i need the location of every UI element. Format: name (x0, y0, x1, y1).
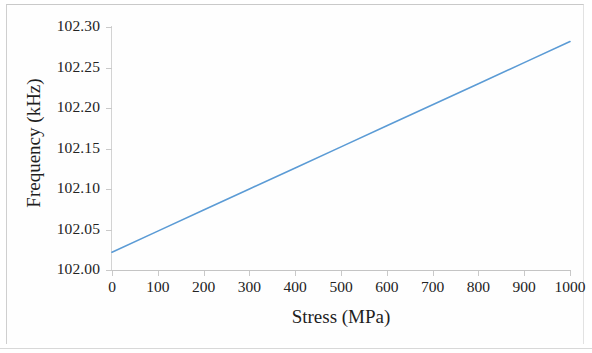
y-axis-tick-label: 102.05 (0, 220, 100, 238)
y-axis-tick (106, 108, 112, 109)
x-axis-tick (112, 271, 113, 276)
x-axis-tick (433, 271, 434, 276)
y-axis-tick-label: 102.30 (0, 17, 100, 35)
y-axis-tick-label: 102.15 (0, 139, 100, 157)
x-axis-tick (341, 271, 342, 276)
x-axis-tick (295, 271, 296, 276)
x-axis-title: Stress (MPa) (112, 306, 570, 328)
series-line-frequency-vs-stress (112, 42, 570, 253)
y-axis-tick (106, 230, 112, 231)
y-axis-title: Frequency (kHz) (23, 43, 45, 243)
y-axis-tick-label: 102.25 (0, 58, 100, 76)
x-axis-tick (387, 271, 388, 276)
y-axis-tick (106, 27, 112, 28)
y-axis-tick-label: 102.10 (0, 179, 100, 197)
x-axis-tick (478, 271, 479, 276)
y-axis-tick-label: 102.00 (0, 260, 100, 278)
x-axis-tick (524, 271, 525, 276)
x-axis-tick (158, 271, 159, 276)
series-plot-layer (0, 0, 592, 353)
x-axis-tick (204, 271, 205, 276)
y-axis-tick-label: 102.20 (0, 98, 100, 116)
x-axis-tick (570, 271, 571, 276)
y-axis-tick (106, 149, 112, 150)
x-axis-tick-label: 1000 (535, 278, 592, 296)
x-axis-tick (249, 271, 250, 276)
y-axis-tick (106, 189, 112, 190)
y-axis-tick (106, 68, 112, 69)
line-chart: 102.30102.25102.20102.15102.10102.05102.… (0, 0, 592, 353)
